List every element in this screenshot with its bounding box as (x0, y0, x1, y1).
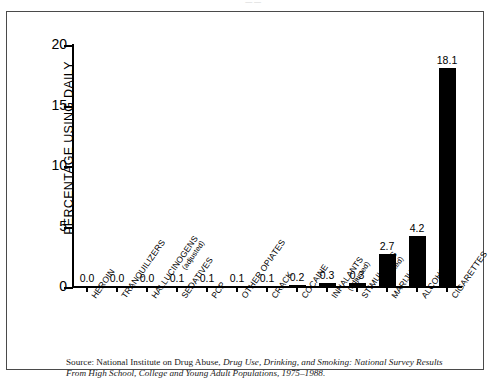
bar-cocaine (289, 285, 306, 287)
x-tick-mark (266, 287, 268, 292)
bar-value-label: 18.1 (432, 55, 462, 66)
source-line1-prefix: Source: National Institute on Drug Abuse… (66, 357, 223, 367)
x-tick-mark (236, 287, 238, 292)
y-tick-label: 10 (51, 158, 67, 173)
x-tick-mark (386, 287, 388, 292)
x-tick-mark (416, 287, 418, 292)
x-tick-mark (326, 287, 328, 292)
x-label-cigarettes: CIGARETTES (450, 250, 489, 300)
plot-area: PERCENTAGE USING DAILY 05101520 0.00.00.… (72, 45, 462, 287)
bar-cigarettes (439, 68, 456, 287)
x-tick-mark (176, 287, 178, 292)
source-line2-italic: From High School, College and Young Adul… (66, 368, 325, 378)
bar-value-label: 2.7 (372, 241, 402, 252)
y-tick-label: 20 (51, 37, 67, 52)
bar-inhalants (319, 283, 336, 287)
x-tick-mark (86, 287, 88, 292)
figure-frame: PERCENTAGE USING DAILY 05101520 0.00.00.… (6, 11, 484, 370)
x-tick-mark (146, 287, 148, 292)
y-tick-label: 5 (59, 219, 67, 234)
y-tick-label: 15 (51, 98, 67, 113)
page-top-sliver-text: — — (236, 0, 270, 5)
x-tick-mark (206, 287, 208, 292)
x-tick-mark (116, 287, 118, 292)
source-note: Source: National Institute on Drug Abuse… (66, 357, 466, 379)
x-tick-mark (356, 287, 358, 292)
x-tick-mark (446, 287, 448, 292)
bar-value-label: 4.2 (402, 223, 432, 234)
source-line1-italic: Drug Use, Drinking, and Smoking: Nationa… (223, 357, 443, 367)
x-tick-mark (296, 287, 298, 292)
y-tick-label: 0 (59, 279, 67, 294)
